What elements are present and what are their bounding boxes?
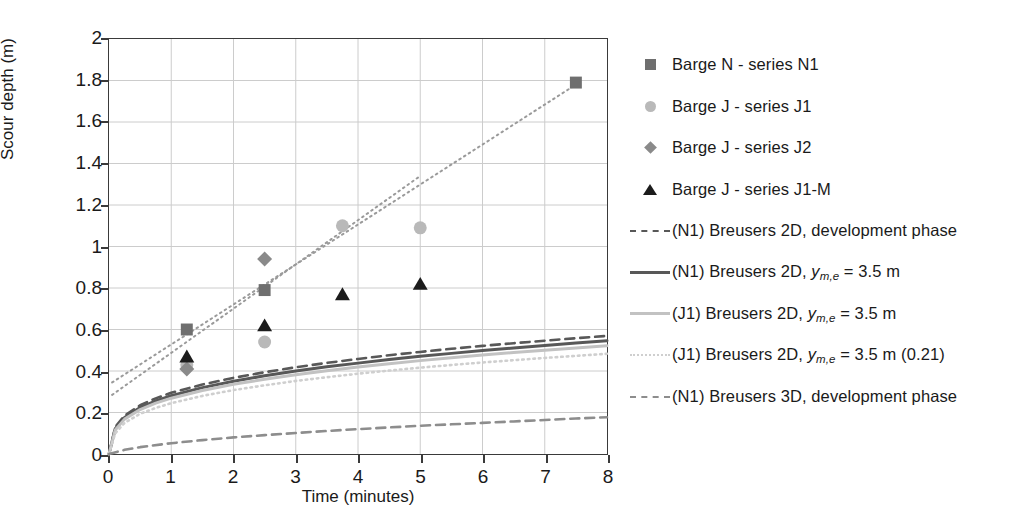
solid-light-line-icon	[630, 312, 670, 315]
legend-key-square-marker	[628, 53, 672, 77]
triangle-marker-icon	[643, 184, 657, 195]
legend-item[interactable]: Barge J - series J2	[628, 127, 1008, 169]
chart-legend: Barge N - series N1Barge J - series J1Ba…	[628, 44, 1008, 418]
legend-label: (J1) Breusers 2D, ym,e = 3.5 m (0.21)	[672, 345, 945, 365]
legend-label: Barge J - series J1	[672, 97, 811, 116]
x-tick-mark	[421, 455, 423, 463]
legend-key-dashed-mid-line	[628, 385, 672, 409]
legend-item[interactable]: (J1) Breusers 2D, ym,e = 3.5 m	[628, 293, 1008, 335]
x-tick-mark	[171, 455, 173, 463]
plot-area	[108, 38, 608, 455]
y-tick-label: 0.6	[36, 320, 102, 339]
x-tick-label: 8	[588, 467, 628, 486]
data-point-square	[181, 324, 193, 336]
line-series	[109, 417, 607, 454]
legend-key-triangle-marker	[628, 177, 672, 201]
legend-label: Barge J - series J1-M	[672, 180, 831, 199]
legend-key-dashed-dark-line	[628, 219, 672, 243]
y-tick-label: 0.4	[36, 362, 102, 381]
data-series-layer	[109, 39, 607, 454]
data-point-circle	[414, 221, 427, 234]
x-tick-label: 6	[463, 467, 503, 486]
data-point-square	[570, 77, 582, 89]
scour-depth-chart-figure: Scour depth (m) 21.81.61.41.210.80.60.40…	[0, 0, 1013, 517]
legend-label: (N1) Breusers 2D, development phase	[672, 221, 957, 240]
y-tick-label: 1.2	[36, 195, 102, 214]
legend-item[interactable]: (J1) Breusers 2D, ym,e = 3.5 m (0.21)	[628, 335, 1008, 377]
legend-item[interactable]: (N1) Breusers 2D, ym,e = 3.5 m	[628, 252, 1008, 294]
legend-item[interactable]: (N1) Breusers 3D, development phase	[628, 376, 1008, 418]
solid-dark-line-icon	[630, 271, 670, 274]
y-tick-label: 1.4	[36, 153, 102, 172]
y-tick-label: 0.8	[36, 278, 102, 297]
line-series	[112, 83, 579, 383]
y-tick-label: 0.2	[36, 403, 102, 422]
dotted-light-line-icon	[630, 354, 670, 356]
legend-label: (N1) Breusers 3D, development phase	[672, 387, 957, 406]
x-tick-label: 0	[88, 467, 128, 486]
legend-key-dotted-light-line	[628, 343, 672, 367]
diamond-marker-icon	[644, 141, 657, 154]
legend-key-circle-marker	[628, 94, 672, 118]
legend-item[interactable]: Barge J - series J1	[628, 86, 1008, 128]
x-tick-label: 4	[338, 467, 378, 486]
x-tick-label: 1	[151, 467, 191, 486]
x-tick-mark	[233, 455, 235, 463]
legend-item[interactable]: Barge N - series N1	[628, 44, 1008, 86]
circle-marker-icon	[645, 101, 656, 112]
data-point-circle	[336, 219, 349, 232]
x-tick-mark	[108, 455, 110, 463]
legend-item[interactable]: (N1) Breusers 2D, development phase	[628, 210, 1008, 252]
legend-label: (N1) Breusers 2D, ym,e = 3.5 m	[672, 262, 900, 282]
legend-label: Barge J - series J2	[672, 138, 811, 157]
x-tick-mark	[296, 455, 298, 463]
data-point-diamond	[257, 251, 272, 266]
data-point-triangle	[257, 318, 272, 331]
x-tick-mark	[608, 455, 610, 463]
legend-label: Barge N - series N1	[672, 55, 819, 74]
square-marker-icon	[645, 59, 656, 70]
x-tick-label: 7	[526, 467, 566, 486]
x-tick-label: 3	[276, 467, 316, 486]
legend-key-solid-dark-line	[628, 260, 672, 284]
y-tick-label: 2	[36, 28, 102, 47]
dashed-mid-line-icon	[630, 396, 670, 398]
data-point-triangle	[335, 287, 350, 300]
dashed-dark-line-icon	[630, 230, 670, 232]
legend-label: (J1) Breusers 2D, ym,e = 3.5 m	[672, 304, 896, 324]
x-tick-label: 2	[213, 467, 253, 486]
data-point-circle	[258, 335, 271, 348]
data-point-triangle	[179, 350, 194, 363]
y-tick-label: 1.8	[36, 70, 102, 89]
x-tick-label: 5	[401, 467, 441, 486]
legend-key-solid-light-line	[628, 302, 672, 326]
x-axis-title: Time (minutes)	[108, 487, 608, 507]
data-point-square	[259, 284, 271, 296]
y-tick-label: 1.6	[36, 111, 102, 130]
y-tick-label: 1	[36, 237, 102, 256]
data-point-triangle	[413, 277, 428, 290]
x-tick-mark	[483, 455, 485, 463]
y-axis-title: Scour depth (m)	[0, 0, 18, 160]
y-tick-label: 0	[36, 445, 102, 464]
legend-item[interactable]: Barge J - series J1-M	[628, 169, 1008, 211]
x-tick-mark	[358, 455, 360, 463]
x-tick-mark	[546, 455, 548, 463]
legend-key-diamond-marker	[628, 136, 672, 160]
